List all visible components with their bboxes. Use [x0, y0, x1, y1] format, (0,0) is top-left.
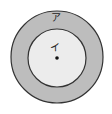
inner-region-label: イ: [50, 42, 60, 53]
center-dot: [55, 56, 59, 60]
concentric-circles-diagram: ア イ: [0, 0, 112, 114]
outer-region-label: ア: [51, 12, 61, 23]
